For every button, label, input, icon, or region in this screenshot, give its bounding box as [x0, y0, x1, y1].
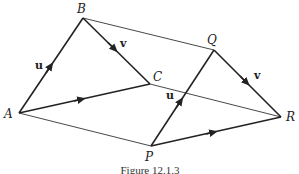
label-R: R: [285, 110, 295, 124]
vector-label-u-left: u: [35, 59, 43, 72]
edge-BQ: [83, 18, 214, 50]
vector-QR: [214, 50, 281, 117]
vector-PR: [151, 117, 281, 146]
edge-AP: [19, 113, 151, 146]
label-P: P: [144, 150, 154, 164]
label-B: B: [76, 2, 86, 16]
arrow-QR-icon: [240, 76, 247, 83]
label-A: A: [3, 107, 13, 121]
arrow-AB-icon: [46, 66, 51, 74]
vector-BC: [83, 18, 150, 84]
vector-label-u-right: u: [166, 89, 174, 102]
arrow-BC-icon: [108, 43, 115, 50]
vector-label-v-right: v: [253, 69, 261, 82]
label-C: C: [153, 70, 162, 84]
arrow-PR-icon: [206, 132, 214, 134]
vector-AC: [19, 84, 150, 113]
arrow-AC-icon: [74, 99, 82, 101]
prism-vector-diagram: B C Q A P R u v u v Figure 12.1.3: [0, 0, 299, 174]
arrow-PQ-icon: [176, 101, 181, 109]
figure-caption: Figure 12.1.3: [121, 164, 180, 174]
vector-label-v-left: v: [119, 37, 127, 50]
label-Q: Q: [207, 33, 217, 47]
